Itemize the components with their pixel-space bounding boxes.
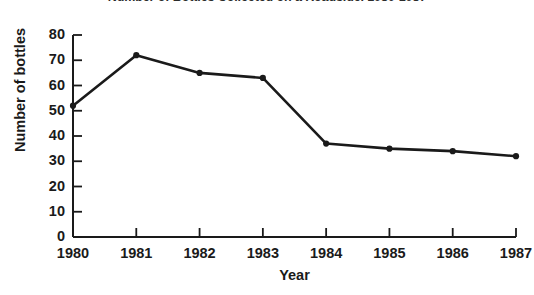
y-tick-label: 50 — [31, 102, 65, 118]
y-tick-label: 0 — [31, 228, 65, 244]
y-tick-label: 60 — [31, 77, 65, 93]
data-line — [73, 55, 516, 156]
x-tick-label: 1983 — [228, 245, 298, 261]
data-point-marker — [513, 153, 519, 159]
data-point-marker — [196, 70, 202, 76]
axis-lines — [73, 35, 516, 237]
data-point-marker — [386, 146, 392, 152]
y-tick-marks — [73, 35, 82, 237]
x-tick-marks — [136, 228, 516, 237]
x-tick-label: 1986 — [418, 245, 488, 261]
data-point-marker — [260, 75, 266, 81]
x-tick-label: 1984 — [291, 245, 361, 261]
x-tick-label: 1987 — [481, 245, 534, 261]
line-chart-figure: Number of Bottles Collected on a Roadsid… — [0, 0, 534, 295]
data-point-marker — [450, 148, 456, 154]
x-tick-label: 1982 — [165, 245, 235, 261]
x-tick-label: 1985 — [354, 245, 424, 261]
data-point-marker — [323, 140, 329, 146]
y-tick-label: 30 — [31, 152, 65, 168]
data-point-marker — [70, 103, 76, 109]
data-point-marker — [133, 52, 139, 58]
y-tick-label: 70 — [31, 51, 65, 67]
x-tick-label: 1980 — [38, 245, 108, 261]
data-markers — [70, 52, 519, 159]
y-tick-label: 10 — [31, 203, 65, 219]
y-tick-label: 40 — [31, 127, 65, 143]
y-tick-label: 20 — [31, 178, 65, 194]
x-tick-label: 1981 — [101, 245, 171, 261]
y-tick-label: 80 — [31, 26, 65, 42]
